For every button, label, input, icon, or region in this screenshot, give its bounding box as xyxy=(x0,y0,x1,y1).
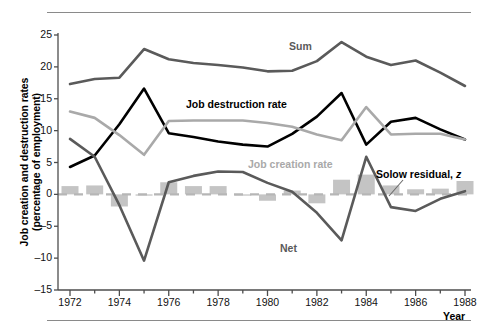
solow-bar xyxy=(308,194,325,203)
solow-bar xyxy=(333,180,350,195)
y-tick-label: –5 xyxy=(26,219,52,231)
solow-bar xyxy=(210,186,227,194)
annotation-net: Net xyxy=(280,242,297,254)
chart-plot-area xyxy=(0,0,483,332)
y-tick-label: –10 xyxy=(26,251,52,263)
y-tick-label: 20 xyxy=(26,60,52,72)
figure: Job creation and destruction rates (perc… xyxy=(0,0,483,332)
y-tick-label: 5 xyxy=(26,156,52,168)
x-tick-label: 1986 xyxy=(396,296,436,308)
series-lines xyxy=(70,42,465,261)
solow-bar xyxy=(86,185,103,194)
y-tick-label: 0 xyxy=(26,187,52,199)
solow-bar xyxy=(185,186,202,194)
y-tick-label: 15 xyxy=(26,92,52,104)
y-tick-label: 10 xyxy=(26,124,52,136)
x-tick-label: 1974 xyxy=(99,296,139,308)
x-tick-label: 1982 xyxy=(297,296,337,308)
solow-bar xyxy=(62,186,79,194)
x-tick-label: 1972 xyxy=(50,296,90,308)
annotation-solow-residual-z: Solow residual, z xyxy=(376,168,461,180)
annotation-sum: Sum xyxy=(289,40,312,52)
x-tick-label: 1978 xyxy=(198,296,238,308)
annotation-job-creation-rate: Job creation rate xyxy=(248,158,333,170)
x-tick-label: 1984 xyxy=(346,296,386,308)
series-line-sum xyxy=(70,42,465,86)
x-tick-label: 1980 xyxy=(248,296,288,308)
y-tick-label: 25 xyxy=(26,28,52,40)
annotation-job-destruction-rate: Job destruction rate xyxy=(186,98,287,110)
x-tick-label: 1976 xyxy=(149,296,189,308)
y-tick-label: –15 xyxy=(26,283,52,295)
x-tick-label: 1988 xyxy=(445,296,483,308)
